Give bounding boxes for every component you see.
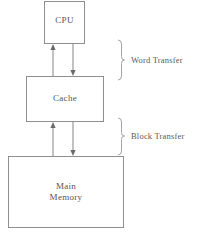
node-main-memory-label: Main Memory [8, 181, 124, 203]
brace-word-transfer [118, 40, 125, 80]
node-cpu-label: CPU [44, 15, 85, 26]
brace-block-transfer [118, 118, 125, 155]
connector-cpu-to-cache [70, 44, 75, 76]
connector-cache-to-memory [70, 122, 75, 156]
connector-cache-to-cpu [50, 44, 55, 76]
cache-memory-hierarchy-diagram: CPU Cache Main Memory Word Transfer Bloc… [0, 0, 201, 245]
connector-memory-to-cache [50, 122, 55, 156]
node-cache-label: Cache [26, 93, 104, 104]
label-word-transfer: Word Transfer [131, 55, 183, 65]
label-block-transfer: Block Transfer [131, 131, 185, 141]
